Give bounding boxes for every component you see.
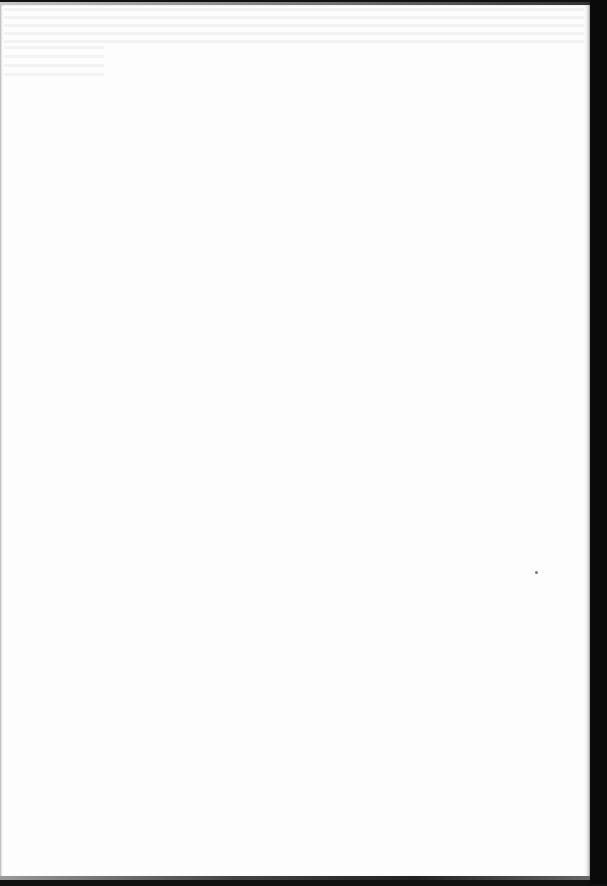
bleed-through-text-fragment	[4, 46, 104, 76]
top-page-edge	[0, 2, 590, 5]
scanner-border-strip	[590, 0, 607, 884]
blank-page	[0, 2, 590, 880]
dust-speck	[535, 571, 538, 574]
bottom-page-edge	[0, 876, 590, 880]
bleed-through-text	[4, 8, 584, 48]
